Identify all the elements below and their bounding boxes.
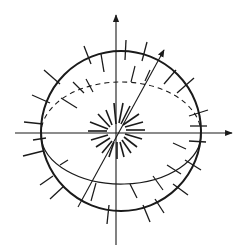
equator-front <box>41 132 201 184</box>
diagram-canvas <box>0 0 242 248</box>
sphere-diagram <box>0 0 242 248</box>
